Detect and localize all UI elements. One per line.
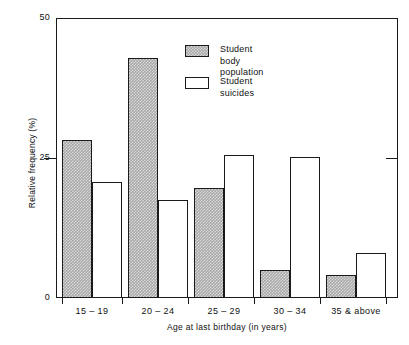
bar-population-35-above [326,275,356,298]
bar-suicides-15-19 [92,182,122,298]
bar-population-30-34 [260,270,290,298]
y-tick-label-25: 25 [26,152,50,162]
x-tick-mark-1 [62,298,63,304]
bar-suicides-30-34 [290,157,320,298]
legend-label-student-suicides: Student suicides [220,76,254,99]
y-tick-label-50: 50 [26,12,50,22]
bar-population-25-29 [194,188,224,298]
legend-item-student-body-population: Student body population [185,44,264,79]
hatched-gray-swatch-icon [185,45,209,57]
x-axis-title: Age at last birthday (in years) [56,322,398,332]
bar-population-20-24 [128,58,158,298]
x-tick-mark-4 [254,298,255,304]
bar-chart: Relative frequency (%) 50 25 0 15 – 19 2… [0,0,409,345]
x-tick-mark-3 [188,298,189,304]
bar-population-15-19 [62,140,92,298]
x-tick-label-35-above: 35 & above [313,306,399,316]
x-tick-mark-6 [386,298,387,304]
open-white-swatch-icon [185,77,209,89]
bar-suicides-25-29 [224,155,254,298]
bar-suicides-35-above [356,253,386,298]
y-tick-label-0: 0 [26,292,50,302]
bar-suicides-20-24 [158,200,188,298]
x-tick-mark-2 [122,298,123,304]
x-tick-mark-5 [320,298,321,304]
y-axis-title: Relative frequency (%) [27,83,37,243]
y-tick-mark-25-left [44,158,56,159]
legend-item-student-suicides: Student suicides [185,76,254,99]
legend-label-student-body-population: Student body population [220,44,264,79]
